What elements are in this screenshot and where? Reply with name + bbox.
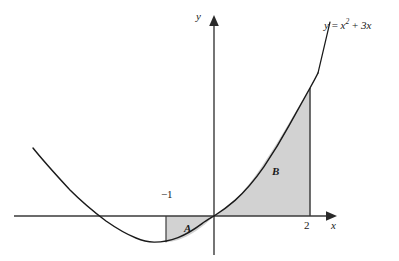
shaded-region-b — [214, 88, 310, 216]
x-tick-label-neg-one: −1 — [161, 188, 172, 200]
equation-label: y = x2 + 3x — [324, 17, 371, 31]
y-axis-label: y — [196, 10, 201, 22]
region-label-a: A — [184, 222, 191, 234]
graph-figure: y x −1 2 A B y = x2 + 3x — [0, 0, 399, 261]
plot-canvas — [0, 0, 399, 261]
equation-term: 3x — [361, 19, 371, 31]
region-label-b: B — [272, 165, 279, 177]
x-tick-label-two: 2 — [304, 219, 310, 231]
equation-plus: + — [349, 19, 361, 31]
y-axis-arrowhead — [209, 15, 219, 26]
x-axis-label: x — [331, 219, 336, 231]
equation-equals: = — [329, 19, 341, 31]
